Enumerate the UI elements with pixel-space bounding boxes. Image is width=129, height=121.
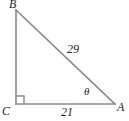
vertex-label-b: B <box>9 0 16 10</box>
vertex-label-a: A <box>117 101 124 113</box>
right-triangle-diagram <box>0 0 129 121</box>
right-angle-marker-icon <box>16 96 24 104</box>
geometry-figure: B C A 29 21 θ <box>0 0 129 121</box>
side-length-label-base: 21 <box>61 106 73 118</box>
triangle-side-hypotenuse <box>16 10 115 104</box>
side-length-label-hypotenuse: 29 <box>67 43 79 55</box>
vertex-label-c: C <box>2 105 10 117</box>
angle-label-theta: θ <box>84 86 89 97</box>
